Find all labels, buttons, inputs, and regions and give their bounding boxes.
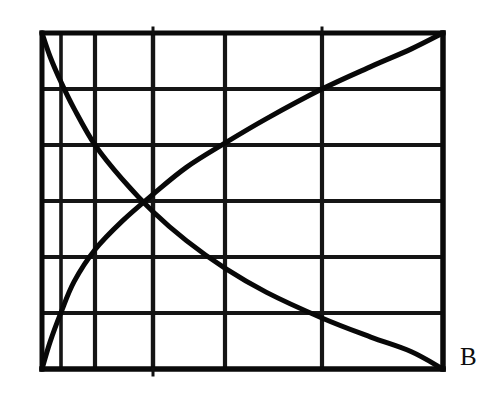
chart-label-b: B: [460, 342, 490, 372]
chart-figure: B: [0, 0, 500, 400]
chart-canvas: [0, 0, 500, 400]
